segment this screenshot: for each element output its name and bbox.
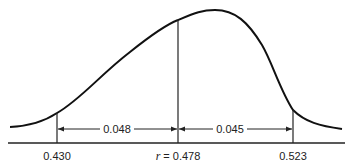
left-interval-label: 0.048 bbox=[103, 123, 131, 135]
left-interval-arrow-left-icon bbox=[58, 127, 64, 132]
upper-bound-label: 0.523 bbox=[279, 150, 307, 162]
distribution-diagram: 0.048 0.045 0.430 r = 0.478 0.523 bbox=[0, 0, 356, 166]
center-label: r = 0.478 bbox=[156, 149, 201, 163]
right-interval-arrow-left-icon bbox=[179, 127, 185, 132]
left-interval-arrow-right-icon bbox=[171, 127, 177, 132]
distribution-curve bbox=[10, 10, 342, 129]
lower-bound-label: 0.430 bbox=[43, 150, 71, 162]
right-interval-label: 0.045 bbox=[216, 123, 244, 135]
center-label-value: = 0.478 bbox=[160, 150, 200, 162]
right-interval-arrow-right-icon bbox=[286, 127, 292, 132]
